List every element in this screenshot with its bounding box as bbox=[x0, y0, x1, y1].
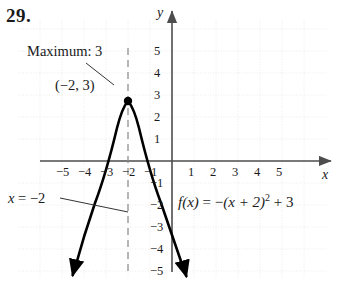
parabola-curve bbox=[75, 101, 184, 270]
y-tick-label: 1 bbox=[154, 133, 160, 146]
x-tick-label: −5 bbox=[56, 166, 69, 179]
function-constant: 3 bbox=[286, 194, 294, 210]
y-tick-label: −4 bbox=[150, 243, 163, 256]
x-tick-label: 4 bbox=[254, 166, 260, 179]
x-tick-label: 2 bbox=[210, 166, 216, 179]
axis-eq-var: x bbox=[8, 190, 14, 206]
y-tick-label: 5 bbox=[154, 45, 160, 58]
function-equation-label: f(x) = −(x + 2)2 + 3 bbox=[178, 193, 294, 210]
function-argument: (x) bbox=[182, 194, 199, 210]
axis-eq-value: −2 bbox=[30, 190, 45, 206]
y-tick-label: 3 bbox=[154, 89, 160, 102]
y-axis-label: y bbox=[157, 6, 163, 20]
y-tick-label: 2 bbox=[154, 111, 160, 124]
problem-number: 29. bbox=[6, 6, 31, 25]
x-tick-label: 5 bbox=[276, 166, 282, 179]
vertex-coordinate-label: (−2, 3) bbox=[55, 78, 95, 93]
function-plus: + bbox=[274, 194, 282, 210]
function-exponent: 2 bbox=[265, 192, 270, 203]
maximum-annotation-label: Maximum: 3 bbox=[27, 44, 102, 59]
y-tick-label: −2 bbox=[150, 199, 163, 212]
x-tick-label: −2 bbox=[122, 166, 135, 179]
x-tick-label: 3 bbox=[232, 166, 238, 179]
parabola-left-arrow bbox=[73, 262, 77, 276]
axis-eq-equals: = bbox=[18, 190, 26, 206]
function-body: (x + 2) bbox=[223, 194, 265, 210]
y-tick-label: −1 bbox=[150, 177, 163, 190]
y-tick-label: −5 bbox=[150, 265, 163, 278]
x-tick-label: −4 bbox=[78, 166, 91, 179]
y-tick-label: −3 bbox=[150, 221, 163, 234]
parabola-right-arrow bbox=[183, 264, 187, 277]
axis-of-symmetry-label: x = −2 bbox=[8, 191, 45, 206]
x-tick-label: −3 bbox=[100, 166, 113, 179]
vertex-point bbox=[124, 97, 132, 105]
function-sign: − bbox=[215, 194, 223, 210]
function-equals: = bbox=[203, 194, 211, 210]
figure-container: 29. Maximum: 3 (−2, 3) x = −2 f(x) = −(x… bbox=[0, 0, 351, 282]
y-tick-label: 4 bbox=[154, 67, 160, 80]
x-axis-label: x bbox=[322, 168, 328, 182]
x-tick-label: 1 bbox=[188, 166, 194, 179]
